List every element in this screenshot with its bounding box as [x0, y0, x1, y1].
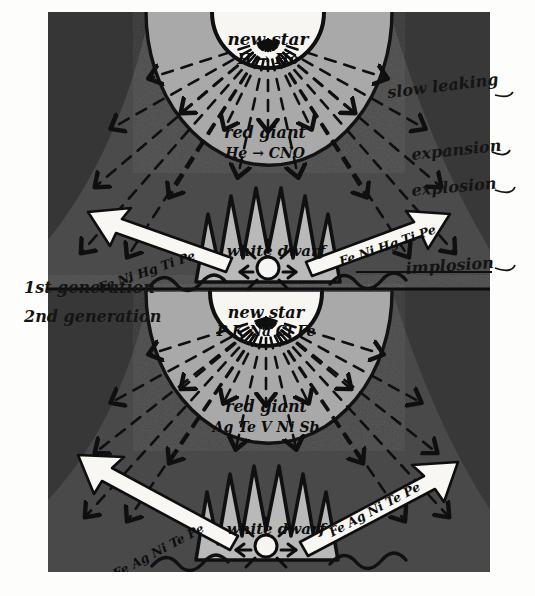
gen2-red-giant-reaction: Ag Te V Ni Sb: [211, 419, 320, 435]
gen1-new-star-reaction: H → He: [237, 50, 299, 68]
gen1-new-star-label: new star: [227, 29, 309, 49]
figure-canvas: Fe Ni Hg Ti Pe Fe Ni Hg Ti Pe Fe Ag Ni T…: [0, 0, 535, 596]
gen2-new-star-reaction: P K Na Cl Fe: [216, 323, 316, 339]
gen1-red-giant-reaction: He → CNO: [224, 145, 306, 161]
gen2-new-star-label: new star: [228, 303, 306, 322]
label-second-generation: 2nd generation: [23, 307, 161, 326]
gen1-red-giant-label: red giant: [224, 123, 307, 142]
gen2-white-dwarf-label: white dwarf: [227, 520, 328, 538]
gen2-red-giant-label: red giant: [225, 397, 308, 416]
label-first-generation: 1st generation: [24, 278, 155, 297]
gen1-white-dwarf-label: white dwarf: [227, 242, 328, 260]
